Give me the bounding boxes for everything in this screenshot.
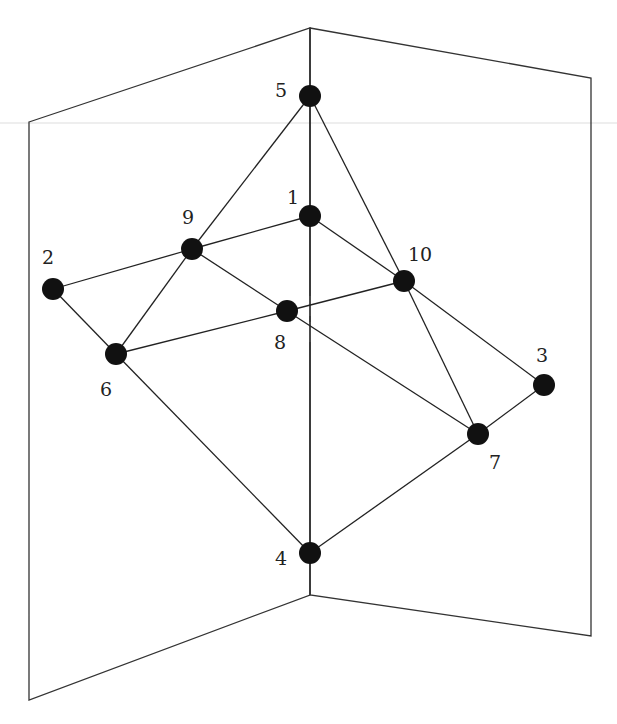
node-9[interactable] xyxy=(181,238,203,260)
graph-diagram xyxy=(0,0,617,724)
node-7[interactable] xyxy=(467,423,489,445)
edge-5-10 xyxy=(310,96,404,281)
edge-5-9 xyxy=(192,96,310,249)
edge-10-7 xyxy=(404,281,478,434)
edge-6-4 xyxy=(116,354,310,553)
node-1[interactable] xyxy=(299,205,321,227)
node-group xyxy=(42,85,555,564)
edge-1-9 xyxy=(192,216,310,249)
edge-3-7 xyxy=(478,385,544,434)
node-label-8: 8 xyxy=(274,333,286,352)
edge-9-8 xyxy=(192,249,287,311)
node-3[interactable] xyxy=(533,374,555,396)
node-8[interactable] xyxy=(276,300,298,322)
edge-group xyxy=(53,96,544,553)
edge-8-7 xyxy=(287,311,478,434)
right-panel xyxy=(310,28,591,636)
edge-1-10 xyxy=(310,216,404,281)
edge-8-10 xyxy=(287,281,404,311)
edge-4-7 xyxy=(310,434,478,553)
node-5[interactable] xyxy=(299,85,321,107)
node-10[interactable] xyxy=(393,270,415,292)
node-label-2: 2 xyxy=(42,248,54,267)
node-label-9: 9 xyxy=(182,208,194,227)
edge-6-8 xyxy=(116,311,287,354)
edge-2-6 xyxy=(53,289,116,354)
left-panel xyxy=(29,28,310,700)
node-2[interactable] xyxy=(42,278,64,300)
node-label-10: 10 xyxy=(408,245,432,264)
node-label-5: 5 xyxy=(275,81,287,100)
node-label-4: 4 xyxy=(275,549,287,568)
edge-10-3 xyxy=(404,281,544,385)
node-label-7: 7 xyxy=(489,453,501,472)
node-label-3: 3 xyxy=(536,346,548,365)
node-4[interactable] xyxy=(299,542,321,564)
node-6[interactable] xyxy=(105,343,127,365)
node-label-1: 1 xyxy=(287,188,299,207)
edge-2-9 xyxy=(53,249,192,289)
node-label-6: 6 xyxy=(100,380,112,399)
